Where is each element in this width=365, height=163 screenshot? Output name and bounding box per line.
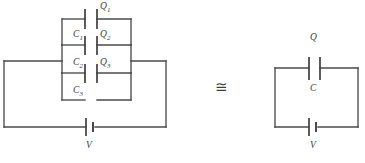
label-q2: Q2 (100, 30, 111, 42)
label-c2: C2 (73, 58, 83, 70)
capacitor-c3-symbol (85, 64, 97, 83)
label-c: C (310, 84, 317, 94)
right-circuit-group (275, 57, 358, 136)
capacitor-c1-symbol (85, 9, 97, 29)
label-q: Q (310, 33, 317, 43)
capacitor-c2-symbol (85, 36, 97, 55)
label-q1: Q1 (100, 2, 111, 14)
congruent-to-icon: ≅ (215, 80, 228, 95)
left-circuit-group (4, 9, 166, 136)
circuit-diagram-canvas: Q1 Q2 Q3 C1 C2 C3 V ≅ Q C V (0, 0, 365, 163)
capacitor-c-symbol (309, 57, 320, 80)
label-q2-symbol: Q (100, 29, 107, 39)
battery-right-symbol (309, 118, 316, 136)
label-v-right: V (310, 141, 316, 151)
label-v-left: V (86, 141, 92, 151)
label-c2-subscript: 2 (80, 62, 84, 70)
label-q2-subscript: 2 (107, 34, 111, 42)
label-c3-subscript: 3 (80, 90, 84, 98)
label-q3-symbol: Q (100, 57, 107, 67)
label-q1-symbol: Q (100, 1, 107, 11)
circuit-vector-layer (0, 0, 365, 163)
label-q3-subscript: 3 (107, 62, 111, 70)
label-c1-subscript: 1 (80, 34, 84, 42)
label-q1-subscript: 1 (107, 6, 111, 14)
label-c1: C1 (73, 30, 83, 42)
label-c3: C3 (73, 86, 83, 98)
label-q3: Q3 (100, 58, 111, 70)
battery-left-symbol (86, 118, 93, 136)
